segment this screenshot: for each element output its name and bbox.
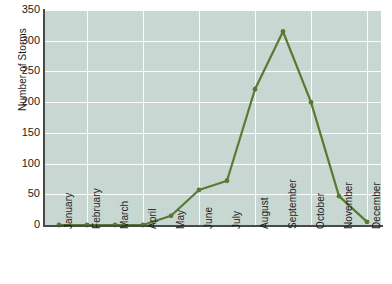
data-point-marker: December: 5 bbox=[365, 220, 370, 225]
y-tick-label: 150 bbox=[6, 127, 40, 138]
chart-figure: Number of Storms 050100150200250300350 J… bbox=[0, 0, 392, 284]
y-tick-label: 200 bbox=[6, 96, 40, 107]
x-tick-label: July bbox=[231, 211, 242, 229]
x-tick-label: September bbox=[287, 179, 298, 229]
data-point-marker: June: 57 bbox=[197, 188, 202, 193]
y-tick-label: 350 bbox=[6, 4, 40, 15]
x-tick-label: March bbox=[119, 201, 130, 229]
x-tick-label: February bbox=[91, 188, 102, 229]
y-tick-label: 100 bbox=[6, 158, 40, 169]
data-point-marker: May: 15 bbox=[169, 213, 174, 218]
x-tick-label: December bbox=[371, 182, 382, 229]
data-point-marker: November: 47 bbox=[337, 194, 342, 199]
x-axis-tick-labels: JanuaryFebruaryMarchAprilMayJuneJulyAugu… bbox=[45, 229, 381, 284]
data-point-marker: October: 200 bbox=[309, 100, 314, 105]
clipped-title bbox=[45, 0, 381, 1]
y-tick-label: 50 bbox=[6, 188, 40, 199]
x-tick-label: November bbox=[343, 182, 354, 229]
y-axis-tick-labels: 050100150200250300350 bbox=[6, 0, 40, 284]
data-point-marker: August: 221 bbox=[253, 87, 258, 92]
y-axis-spine bbox=[43, 9, 45, 227]
x-tick-label: April bbox=[147, 208, 158, 229]
x-tick-label: January bbox=[63, 193, 74, 229]
x-tick-label: October bbox=[315, 193, 326, 229]
y-tick-label: 250 bbox=[6, 65, 40, 76]
data-point-marker: September: 315 bbox=[281, 29, 286, 34]
data-point-marker: July: 72 bbox=[225, 178, 230, 183]
x-tick-label: May bbox=[175, 210, 186, 229]
y-tick-label: 0 bbox=[6, 219, 40, 230]
y-tick-label: 300 bbox=[6, 35, 40, 46]
x-tick-label: August bbox=[259, 197, 270, 229]
x-tick-label: June bbox=[203, 207, 214, 229]
